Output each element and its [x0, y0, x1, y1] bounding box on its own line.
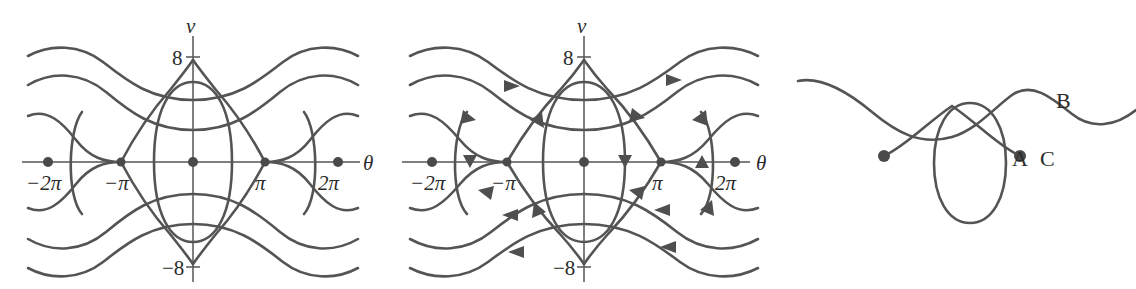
pendulum-phase-portrait-figure: −2π −π π 2π 8 −8 v θ: [0, 0, 1136, 289]
fixed-point-center-2pi-2: [730, 157, 740, 167]
trajectory-B-rotation: [798, 80, 1136, 140]
ytick-label-minus-8-2: −8: [553, 256, 575, 280]
flow-arrow-right-2: [666, 74, 682, 86]
fixed-point-center-2pi: [333, 157, 343, 167]
axis-label-v: v: [186, 14, 196, 38]
libration-arc-minus-2pi-2: [455, 112, 467, 214]
fixed-point-center-minus-2pi-2: [427, 157, 437, 167]
xtick-label-minus-2pi-2: −2π: [410, 171, 446, 195]
flow-arrow-sep-upright-1: [530, 112, 544, 128]
ytick-label-8-2: 8: [563, 46, 574, 70]
fixed-point-saddle-pi: [261, 158, 270, 167]
xtick-label-2pi-2: 2π: [715, 171, 737, 195]
xtick-label-minus-2pi: −2π: [26, 171, 62, 195]
axis-label-theta-2: θ: [756, 151, 766, 175]
xtick-label-2pi: 2π: [318, 171, 340, 195]
fixed-point-center-origin-2: [579, 157, 589, 167]
panel-phase-portrait-plain: −2π −π π 2π 8 −8 v θ: [0, 0, 380, 289]
separatrix-upper-left: [28, 114, 121, 162]
fixed-point-center-minus-2pi: [43, 157, 53, 167]
axis-label-theta: θ: [363, 151, 373, 175]
separatrix-upper-right: [265, 114, 358, 162]
saddle-point-left: [878, 150, 890, 162]
trajectory-label-B: B: [1056, 88, 1071, 113]
flow-arrow-left-4: [660, 241, 676, 253]
fixed-point-saddle-minus-pi: [117, 158, 126, 167]
fixed-point-saddle-minus-pi-2: [503, 158, 512, 167]
phase-portrait-plain-svg: −2π −π π 2π 8 −8 v θ: [0, 0, 380, 289]
libration-arc-plus-2pi: [304, 112, 315, 214]
axis-label-v-2: v: [577, 14, 587, 38]
fixed-point-saddle-pi-2: [657, 158, 666, 167]
trajectory-detail-svg: A B C: [780, 0, 1136, 289]
phase-portrait-arrows-svg: −2π −π π 2π 8 −8 v θ: [380, 0, 780, 289]
xtick-label-pi: π: [255, 171, 266, 195]
xtick-label-minus-pi: −π: [104, 171, 129, 195]
trajectory-label-A: A: [1012, 146, 1028, 171]
xtick-label-minus-pi-2: −π: [491, 171, 516, 195]
xtick-label-pi-2: π: [652, 171, 663, 195]
flow-arrow-left-2: [654, 204, 670, 216]
libration-arc-minus-2pi: [71, 112, 82, 214]
panel-phase-portrait-arrows: −2π −π π 2π 8 −8 v θ: [380, 0, 780, 289]
ytick-label-8: 8: [172, 46, 183, 70]
fixed-point-center-origin: [188, 157, 198, 167]
panel-trajectory-detail: A B C: [780, 0, 1136, 289]
trajectory-C-separatrix: [884, 106, 1020, 156]
ytick-label-minus-8: −8: [162, 256, 184, 280]
trajectory-label-C: C: [1040, 146, 1055, 171]
flow-arrow-left-3: [508, 246, 524, 258]
separatrix-lower-right: [265, 162, 358, 210]
